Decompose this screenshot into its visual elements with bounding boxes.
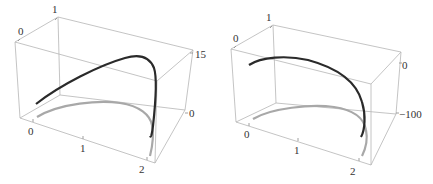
plot-left: 0 1 15 0 0 1 2 bbox=[0, 0, 216, 184]
z-tick-bottom: 0 bbox=[189, 108, 195, 119]
z-tick-top: 0 bbox=[402, 60, 408, 71]
y-tick-0: 0 bbox=[233, 33, 239, 44]
z-tick-bottom: −100 bbox=[399, 109, 422, 120]
projection-curve bbox=[37, 102, 153, 156]
y-tick-1: 1 bbox=[266, 12, 272, 23]
y-tick-1: 1 bbox=[52, 4, 58, 15]
bounding-box bbox=[231, 25, 401, 165]
x-tick-1: 1 bbox=[294, 145, 300, 156]
bounding-box bbox=[15, 17, 193, 163]
x-tick-0: 0 bbox=[244, 129, 250, 140]
x-tick-2: 2 bbox=[139, 164, 145, 175]
x-tick-1: 1 bbox=[80, 143, 86, 154]
plot-right-canvas bbox=[216, 0, 432, 184]
y-tick-0: 0 bbox=[18, 26, 24, 37]
plot-left-canvas bbox=[0, 0, 216, 184]
plot-right: 0 1 0 −100 0 1 2 bbox=[216, 0, 432, 184]
x-tick-2: 2 bbox=[350, 166, 356, 177]
z-tick-top: 15 bbox=[195, 49, 206, 60]
x-tick-0: 0 bbox=[28, 126, 34, 137]
projection-curve bbox=[253, 106, 367, 156]
tick-marks bbox=[234, 26, 402, 161]
main-curve bbox=[249, 57, 365, 137]
main-curve bbox=[36, 56, 156, 136]
tick-marks bbox=[18, 18, 193, 160]
